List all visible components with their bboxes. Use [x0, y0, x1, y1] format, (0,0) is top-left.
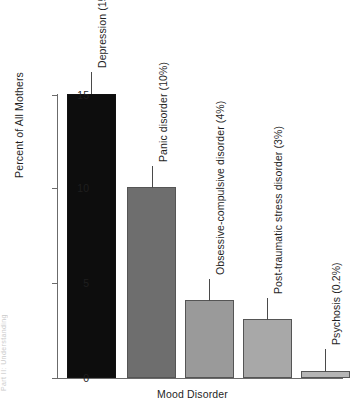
bar-label-panic-disorder: Panic disorder (10%)	[157, 62, 169, 162]
bar-obsessive-compulsive-disorder[interactable]	[185, 300, 234, 378]
bar-depression[interactable]	[67, 94, 116, 378]
leader-line-post-traumatic-stress-disorder	[267, 298, 268, 320]
y-tick-label-10: 10	[77, 182, 89, 194]
x-axis-title-wrap: Mood Disorder	[0, 388, 343, 400]
bar-label-depression: Depression (15%	[96, 0, 108, 68]
leader-line-psychosis	[325, 349, 326, 372]
y-tick-label-0: 0	[83, 372, 89, 384]
y-tick-label-15: 15	[77, 89, 89, 101]
y-axis-line	[57, 94, 58, 379]
y-tick-5	[52, 283, 58, 284]
x-axis-line	[57, 378, 343, 379]
bar-label-post-traumatic-stress-disorder: Post-traumatic stress disorder (3%)	[272, 126, 284, 294]
y-tick-15	[52, 95, 58, 96]
y-tick-10	[52, 188, 58, 189]
bar-label-psychosis: Psychosis (0.2%)	[330, 262, 342, 345]
x-axis-title: Mood Disorder	[115, 388, 228, 400]
plot-area	[57, 94, 343, 379]
y-tick-label-group: 0 5 10 15	[0, 0, 40, 285]
bar-post-traumatic-stress-disorder[interactable]	[243, 319, 292, 378]
leader-line-depression	[91, 72, 92, 94]
bar-label-obsessive-compulsive-disorder: Obsessive-compulsive disorder (4%)	[214, 101, 226, 275]
y-tick-label-5: 5	[83, 277, 89, 289]
y-tick-0	[52, 378, 58, 379]
bar-panic-disorder[interactable]	[127, 187, 176, 378]
leader-line-obsessive-compulsive-disorder	[209, 279, 210, 301]
leader-line-panic-disorder	[152, 166, 153, 188]
